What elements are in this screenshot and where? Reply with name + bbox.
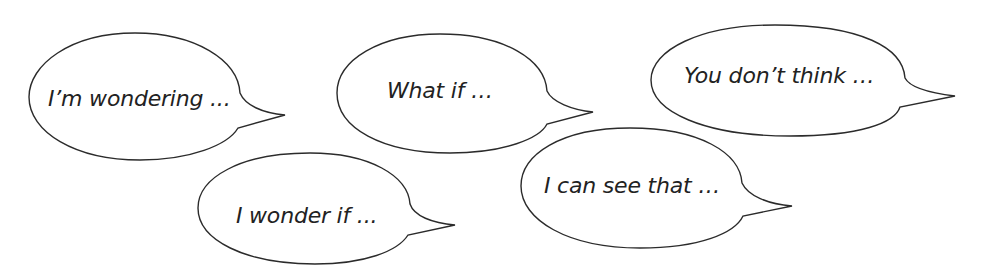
speech-bubble-i-can-see-that: I can see that …	[544, 175, 720, 197]
speech-bubble-im-wondering: I’m wondering ...	[48, 88, 230, 110]
speech-bubble-you-dont-think: You don’t think …	[684, 65, 874, 87]
speech-bubble-what-if: What if …	[387, 80, 493, 102]
speech-bubble-i-wonder-if: I wonder if ...	[236, 205, 377, 227]
speech-bubbles-illustration: I’m wondering ... What if … You don’t th…	[0, 0, 987, 280]
